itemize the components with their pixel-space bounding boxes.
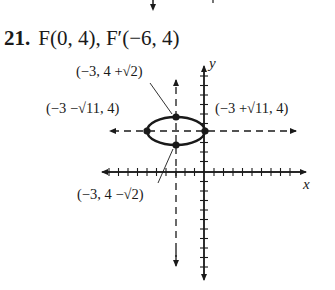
bottom-vertex-label: (−3, 4 −√2) (77, 187, 144, 202)
top-vertex-point (172, 113, 179, 120)
top-label-leader (150, 83, 172, 114)
x-axis-label: x (303, 177, 310, 192)
bottom-vertex-point (172, 141, 179, 148)
top-vertex-label: (−3, 4 +√2) (76, 64, 143, 79)
right-vertex-label: (−3 +√11, 4) (215, 101, 288, 116)
y-axis-label: y (209, 56, 216, 71)
left-vertex-point (143, 127, 150, 134)
ellipse-graph (0, 0, 335, 290)
left-vertex-label: (−3 −√11, 4) (46, 101, 119, 116)
y-axis (200, 66, 208, 280)
previous-figure-arrow-fragment (150, 0, 213, 11)
right-vertex-point (201, 127, 208, 134)
bottom-label-leader (158, 149, 173, 183)
